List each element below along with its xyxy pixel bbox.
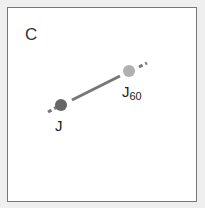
- point-j: [55, 99, 67, 111]
- dashed-extension-end: [139, 63, 147, 67]
- point-j-label: J: [55, 117, 63, 134]
- point-j60: [123, 65, 135, 77]
- point-j60-label: J60: [122, 83, 142, 102]
- diagram-svg: [0, 0, 205, 208]
- connecting-line: [72, 76, 120, 100]
